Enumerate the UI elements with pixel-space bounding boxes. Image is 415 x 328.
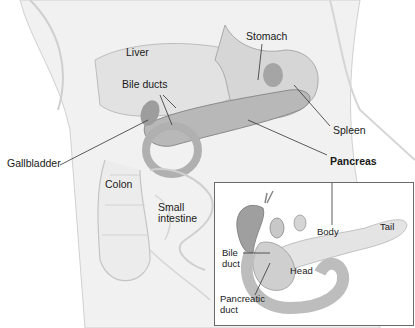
inset-label-body: Body — [317, 226, 339, 237]
anatomy-diagram: Liver Stomach Bile ducts Spleen Gallblad… — [0, 0, 415, 328]
label-stomach: Stomach — [246, 30, 287, 42]
label-pancreas: Pancreas — [330, 155, 377, 167]
label-colon: Colon — [105, 178, 132, 190]
label-small-intestine-2: intestine — [158, 212, 197, 224]
inset-label-tail: Tail — [380, 221, 394, 232]
label-liver: Liver — [126, 46, 149, 58]
inset-label-bile-duct-1: Bile — [222, 247, 238, 258]
pancreas-detail-inset: Body Tail Bile duct Head Pancreatic duct — [214, 182, 414, 326]
inset-label-pancreatic-duct-2: duct — [220, 304, 238, 315]
label-gallbladder: Gallbladder — [7, 157, 61, 169]
inset-label-head: Head — [290, 265, 313, 276]
inset-label-pancreatic-duct-1: Pancreatic — [220, 293, 265, 304]
label-spleen: Spleen — [333, 124, 366, 136]
label-bile-ducts: Bile ducts — [122, 78, 168, 90]
inset-label-bile-duct-2: duct — [222, 258, 240, 269]
